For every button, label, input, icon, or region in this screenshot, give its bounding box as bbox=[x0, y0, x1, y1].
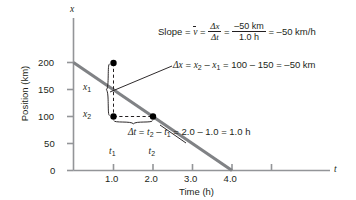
slope-fraction-delta-denominator: Δt bbox=[208, 31, 221, 42]
label-t1-subscript: 1 bbox=[112, 150, 116, 157]
delta-x-equals: = bbox=[183, 59, 194, 70]
label-t2: t2 bbox=[149, 147, 156, 157]
y-axis-symbol: x bbox=[70, 5, 74, 15]
x-tick-label-1: 1.0 bbox=[105, 174, 119, 184]
x-axis-symbol: t bbox=[334, 165, 337, 175]
slope-result: = –50 km/h bbox=[266, 26, 316, 37]
label-t2-subscript: 2 bbox=[151, 150, 155, 157]
x-tick-label-3: 3.0 bbox=[184, 174, 198, 184]
slope-fraction-values: –50 km1.0 h bbox=[232, 22, 266, 43]
x-axis-title: Time (h) bbox=[179, 187, 214, 197]
delta-x-symbol: Δx bbox=[173, 60, 183, 70]
data-point-t1-x2 bbox=[110, 113, 116, 119]
y-axis-title: Position (km) bbox=[19, 49, 30, 139]
x-tick-label-4: 4.0 bbox=[224, 174, 238, 184]
slope-fraction-values-numerator: –50 km bbox=[232, 22, 266, 32]
position-time-graph-figure: x t 0 50 100 150 200 1.0 2.0 3.0 4.0 Pos… bbox=[0, 0, 356, 200]
y-tick-label-50: 50 bbox=[44, 139, 55, 149]
delta-t-symbol: Δt bbox=[128, 127, 136, 137]
slope-fraction-delta-numerator: Δx bbox=[208, 22, 221, 32]
data-point-t1-x1 bbox=[110, 60, 116, 66]
delta-t-result: = 2.0 – 1.0 = 1.0 h bbox=[171, 126, 251, 137]
delta-t-minus: – bbox=[154, 126, 165, 137]
delta-x-leader-line bbox=[110, 66, 172, 92]
x-tick-label-2: 2.0 bbox=[145, 174, 159, 184]
slope-equals-2: = bbox=[221, 26, 232, 37]
slope-equation: Slope = v = ΔxΔt = –50 km1.0 h = –50 km/… bbox=[158, 22, 316, 43]
y-tick-label-0: 0 bbox=[50, 166, 55, 176]
delta-x-minus: – bbox=[202, 59, 213, 70]
slope-fraction-delta: ΔxΔt bbox=[208, 22, 221, 43]
delta-t-annotation: Δt = t2 – t1 = 2.0 – 1.0 = 1.0 h bbox=[128, 127, 250, 138]
label-x1: x1 bbox=[83, 83, 91, 93]
y-tick-label-200: 200 bbox=[38, 58, 54, 68]
delta-x-brace bbox=[106, 64, 109, 116]
slope-fraction-values-denominator: 1.0 h bbox=[232, 31, 266, 42]
delta-t-brace bbox=[114, 121, 153, 124]
label-x2: x2 bbox=[83, 110, 91, 120]
x-axis-ticks bbox=[114, 164, 272, 171]
slope-equals-1: = bbox=[197, 26, 208, 37]
delta-x-annotation: Δx = x2 – x1 = 100 – 150 = –50 km bbox=[173, 60, 316, 71]
y-tick-label-100: 100 bbox=[38, 112, 54, 122]
y-tick-label-150: 150 bbox=[38, 85, 54, 95]
y-axis-ticks bbox=[67, 63, 74, 171]
data-point-t2-x2 bbox=[150, 113, 156, 119]
slope-equation-prefix: Slope = bbox=[158, 26, 193, 37]
average-velocity-symbol: v bbox=[193, 28, 197, 38]
label-t1: t1 bbox=[109, 147, 116, 157]
label-x1-subscript: 1 bbox=[87, 86, 91, 93]
label-x2-subscript: 2 bbox=[87, 113, 91, 120]
delta-x-result: = 100 – 150 = –50 km bbox=[220, 59, 315, 70]
delta-t-equals: = bbox=[136, 126, 147, 137]
